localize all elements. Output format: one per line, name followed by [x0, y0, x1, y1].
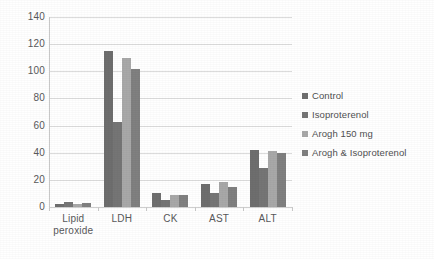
bar — [152, 193, 161, 207]
bar-group-ck — [149, 17, 191, 207]
bar-group-ldh — [101, 17, 143, 207]
x-axis-label-line: LDH — [98, 213, 146, 225]
legend-swatch-icon — [302, 112, 308, 118]
y-axis-tick-labels: 020406080100120140 — [0, 17, 45, 207]
x-tick-mark-2 — [146, 207, 147, 211]
x-tick-mark-3 — [195, 207, 196, 211]
legend-item-label: Isoproterenol — [312, 110, 369, 120]
bar — [161, 200, 170, 207]
bar-group-alt — [247, 17, 289, 207]
y-tick-label-20: 20 — [1, 175, 45, 185]
bar-chart: 020406080100120140 LipidperoxideLDHCKAST… — [0, 0, 434, 259]
legend-item-isoproterenol[interactable]: Isoproterenol — [302, 105, 432, 124]
x-axis-label-line: peroxide — [49, 225, 97, 237]
bar — [210, 193, 219, 207]
x-tick-mark-5 — [292, 207, 293, 211]
y-tick-label-60: 60 — [1, 121, 45, 131]
bar — [131, 69, 140, 207]
bar — [122, 58, 131, 207]
legend-item-arogh-isoproterenol[interactable]: Arogh & Isoproterenol — [302, 143, 432, 162]
x-axis-label-ast: AST — [195, 213, 243, 237]
bar — [170, 195, 179, 207]
bar — [179, 195, 188, 207]
x-tick-mark-0 — [49, 207, 50, 211]
y-tick-label-120: 120 — [1, 39, 45, 49]
bar — [228, 187, 237, 207]
x-axis-label-line: Lipid — [49, 213, 97, 225]
x-tick-mark-4 — [243, 207, 244, 211]
legend-item-label: Arogh & Isoproterenol — [312, 148, 407, 158]
bar — [201, 184, 210, 207]
legend-item-label: Control — [312, 91, 343, 101]
x-axis-label-ck: CK — [146, 213, 194, 237]
y-tick-label-80: 80 — [1, 93, 45, 103]
x-axis-label-ldh: LDH — [98, 213, 146, 237]
x-axis-label-lipid-peroxide: Lipidperoxide — [49, 213, 97, 237]
x-axis-label-line: ALT — [244, 213, 292, 225]
bar — [268, 151, 277, 207]
legend-item-label: Arogh 150 mg — [312, 129, 373, 139]
y-tick-label-100: 100 — [1, 66, 45, 76]
x-axis-labels: LipidperoxideLDHCKASTALT — [49, 213, 292, 237]
legend-item-arogh-150-mg[interactable]: Arogh 150 mg — [302, 124, 432, 143]
bar — [113, 122, 122, 208]
legend-swatch-icon — [302, 93, 308, 99]
legend-swatch-icon — [302, 131, 308, 137]
y-tick-label-40: 40 — [1, 148, 45, 158]
bar — [259, 168, 268, 207]
chart-legend: ControlIsoproterenolArogh 150 mgArogh & … — [302, 86, 432, 162]
x-axis-label-line: AST — [195, 213, 243, 225]
x-axis-tick-marks — [49, 207, 292, 211]
y-tick-label-140: 140 — [1, 12, 45, 22]
bar — [219, 182, 228, 207]
x-tick-mark-1 — [98, 207, 99, 211]
y-tick-label-0: 0 — [1, 202, 45, 212]
legend-item-control[interactable]: Control — [302, 86, 432, 105]
bar — [104, 51, 113, 207]
bar-group-ast — [198, 17, 240, 207]
x-axis-label-alt: ALT — [244, 213, 292, 237]
x-axis-label-line: CK — [146, 213, 194, 225]
legend-swatch-icon — [302, 150, 308, 156]
bar — [250, 150, 259, 207]
bar-group-lipid-peroxide — [52, 17, 94, 207]
bar-groups — [49, 17, 292, 207]
bar — [277, 153, 286, 207]
